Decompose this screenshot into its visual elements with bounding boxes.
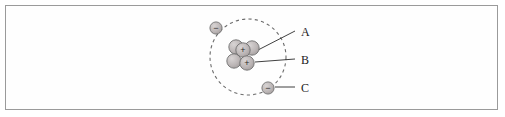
- callout-label-b: B: [301, 53, 309, 67]
- leader-line-a: [258, 31, 295, 50]
- leader-line-b: [255, 59, 295, 62]
- nucleus-cluster: + +: [227, 40, 259, 70]
- callout-label-a: A: [301, 25, 310, 39]
- atom-diagram-figure: + + − − A B C: [0, 0, 505, 117]
- callout-label-c: C: [301, 81, 309, 95]
- proton-plus-sign-1: +: [240, 45, 245, 55]
- electron-upper-left: −: [210, 22, 222, 34]
- atom-diagram-canvas: + + − − A B C: [0, 0, 505, 117]
- electron-minus-sign-2: −: [265, 83, 270, 93]
- proton-plus-sign-2: +: [244, 58, 249, 68]
- electron-minus-sign-1: −: [213, 23, 218, 33]
- electron-lower-right: −: [262, 82, 274, 94]
